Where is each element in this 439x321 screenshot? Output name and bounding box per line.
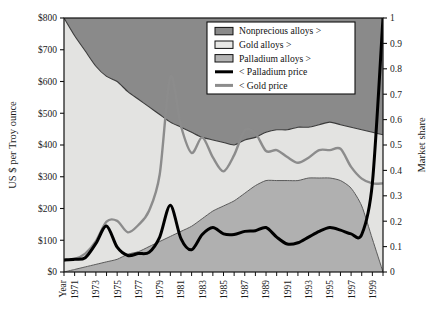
legend-swatch-box [215, 27, 233, 34]
x-axis-tick-label: 1987 [240, 280, 250, 299]
legend-item-label: Palladium alloys > [239, 53, 311, 64]
legend-item[interactable]: Nonprecious alloys > [215, 25, 321, 36]
y2-axis-tick-label: 0.3 [390, 191, 402, 201]
y-axis-tick-label: $100 [38, 236, 57, 246]
chart-container: $0$100$200$300$400$500$600$700$80000.10.… [0, 0, 439, 321]
y-axis-title: US $ per Troy ounce [7, 101, 18, 189]
x-axis-tick-label: 1995 [325, 280, 335, 299]
y2-axis-tick-label: 0.7 [390, 90, 402, 100]
chart-legend[interactable]: Nonprecious alloys >Gold alloys >Palladi… [207, 22, 355, 94]
legend-item-label: Nonprecious alloys > [239, 25, 321, 36]
x-axis-tick-label: 1971 [70, 280, 80, 299]
market-share-price-chart: $0$100$200$300$400$500$600$700$80000.10.… [0, 0, 439, 321]
legend-item[interactable]: Palladium alloys > [215, 53, 311, 64]
y2-axis-tick-label: 0.6 [390, 115, 402, 125]
y-axis-tick-label: $300 [38, 172, 57, 182]
x-axis-tick-label: 1981 [176, 280, 186, 299]
x-axis-tick-label: 1993 [304, 280, 314, 299]
x-axis-tick-label: 1985 [219, 280, 229, 299]
legend-swatch-box [215, 55, 233, 62]
x-axis-tick-label: 1983 [198, 280, 208, 299]
y-axis-tick-label: $0 [48, 267, 58, 277]
y2-axis-tick-label: 0.1 [390, 242, 402, 252]
y2-axis-tick-label: 1 [390, 13, 395, 23]
x-axis-tick-label: 1989 [261, 280, 271, 299]
y2-axis-tick-label: 0.9 [390, 39, 402, 49]
y2-axis-tick-label: 0.5 [390, 140, 402, 150]
y2-axis-tick-label: 0.8 [390, 64, 402, 74]
y2-axis-tick-label: 0.2 [390, 217, 402, 227]
legend-item-label: < Gold price [239, 80, 288, 91]
x-axis-tick-label: 1991 [283, 280, 293, 299]
x-axis-tick-label: 1997 [347, 280, 357, 299]
legend-item[interactable]: Gold alloys > [215, 39, 291, 50]
x-axis-tick-label: 1999 [368, 280, 378, 299]
y-axis-tick-label: $400 [38, 140, 57, 150]
x-axis-tick-label: 1975 [113, 280, 123, 299]
y-axis-tick-label: $800 [38, 13, 57, 23]
y2-axis-title: Market share [416, 117, 427, 172]
y-axis-tick-label: $200 [38, 204, 57, 214]
y2-axis-tick-label: 0.4 [390, 166, 402, 176]
x-axis-tick-label: 1977 [134, 280, 144, 299]
legend-item-label: Gold alloys > [239, 39, 291, 50]
x-axis-tick-label: 1973 [91, 280, 101, 299]
y-axis-tick-label: $700 [38, 45, 57, 55]
legend-swatch-box [215, 41, 233, 48]
x-axis-tick-label: 1979 [155, 280, 165, 299]
y2-axis-tick-label: 0 [390, 267, 395, 277]
y-axis-tick-label: $500 [38, 109, 57, 119]
x-axis-title: Year [58, 279, 68, 297]
y-axis-tick-label: $600 [38, 77, 57, 87]
legend-item-label: < Palladium price [239, 66, 307, 77]
